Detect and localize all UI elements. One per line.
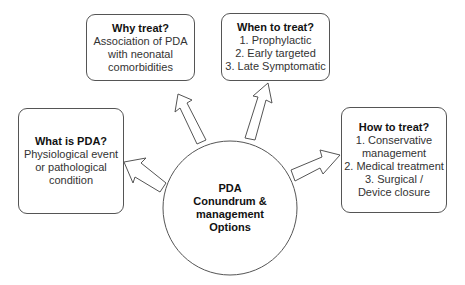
box-title: Why treat? bbox=[112, 22, 169, 35]
box-line: condition bbox=[49, 174, 93, 187]
box-line: Physiological event bbox=[24, 148, 118, 161]
box-title: How to treat? bbox=[359, 121, 429, 134]
how-to-treat-box: How to treat? 1. Conservative management… bbox=[341, 107, 447, 213]
box-line: or pathological bbox=[35, 161, 107, 174]
box-line: 1. Prophylactic bbox=[239, 34, 311, 47]
center-line: Options bbox=[209, 221, 251, 234]
box-line: management bbox=[362, 147, 426, 160]
center-line: Conundrum & bbox=[193, 195, 266, 208]
center-line: PDA bbox=[218, 182, 241, 195]
box-line: 3. Late Symptomatic bbox=[225, 60, 325, 73]
box-title: When to treat? bbox=[237, 21, 314, 34]
box-line: 3. Surgical / bbox=[365, 173, 423, 186]
box-line: 1. Conservative bbox=[356, 134, 432, 147]
arrow-to-how-icon bbox=[291, 150, 340, 181]
box-line: 2. Early targeted bbox=[235, 47, 316, 60]
box-line: 2. Medical treatment bbox=[344, 160, 444, 173]
when-to-treat-box: When to treat? 1. Prophylactic 2. Early … bbox=[221, 13, 330, 81]
box-line: Device closure bbox=[358, 186, 430, 199]
arrow-to-when-icon bbox=[245, 83, 272, 140]
box-line: Association of PDA bbox=[93, 35, 187, 48]
why-treat-box: Why treat? Association of PDA with neona… bbox=[86, 14, 195, 81]
what-is-pda-box: What is PDA? Physiological event or path… bbox=[18, 108, 124, 214]
box-line: comorbidities bbox=[108, 61, 173, 74]
box-line: with neonatal bbox=[108, 48, 173, 61]
arrow-to-why-icon bbox=[175, 94, 206, 144]
center-label: PDA Conundrum & management Options bbox=[163, 141, 297, 275]
box-title: What is PDA? bbox=[35, 135, 107, 148]
center-line: management bbox=[196, 208, 264, 221]
arrow-to-what-icon bbox=[124, 158, 166, 192]
